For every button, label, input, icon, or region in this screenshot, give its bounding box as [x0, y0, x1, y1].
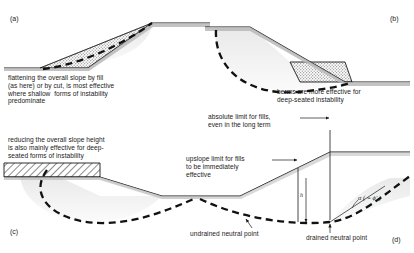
annotation-drained-neutral-point: drained neutral point — [306, 234, 367, 242]
annotation-height-h: h — [300, 192, 303, 198]
panel-c-excavated-zone — [4, 163, 100, 177]
annotation-absolute-limit: absolute limit for fills, even in the lo… — [208, 113, 271, 129]
panel-label-c: (c) — [10, 228, 18, 235]
slope-stabilisation-figure — [0, 0, 414, 253]
annotation-upslope-limit: upslope limit for fills to be immediatel… — [186, 155, 245, 178]
panel-b-berm — [290, 62, 352, 82]
panel-d-undrained-leader — [246, 219, 252, 228]
panel-b-graphic — [205, 27, 410, 92]
panel-a-caption: flattening the overall slope by fill (as… — [8, 74, 114, 105]
panel-label-d: (d) — [392, 236, 401, 243]
panel-a-graphic — [4, 23, 210, 71]
annotation-angle-alpha: α ( = ϕ'ᵣ) — [358, 194, 381, 201]
panel-b-caption: berms are more effective for deep-seated… — [277, 88, 361, 104]
panel-c-graphic — [4, 163, 200, 223]
annotation-undrained-neutral-point: undrained neutral point — [190, 230, 259, 238]
panel-label-b: (b) — [390, 15, 399, 22]
panel-c-caption: reducing the overall slope height is als… — [8, 136, 105, 159]
panel-label-a: (a) — [10, 15, 19, 22]
